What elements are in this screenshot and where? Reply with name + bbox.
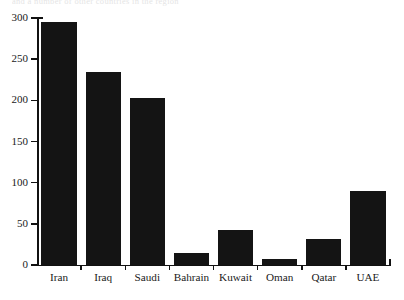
y-axis-tick-label: 0 [0,259,28,270]
x-axis-label-kuwait: Kuwait [214,271,258,283]
x-axis-tick [301,265,303,270]
x-axis-tick [169,265,171,270]
bar-oman [262,259,297,265]
y-axis-tick-label: 250 [0,53,28,64]
x-axis-label-iraq: Iraq [81,271,125,283]
x-axis-tick [257,265,259,270]
x-axis-tick [345,265,347,270]
y-axis-tick-label: 100 [0,177,28,188]
x-axis-tick [125,265,127,270]
x-axis-label-iran: Iran [37,271,81,283]
bars-container [37,18,390,265]
bar-qatar [306,239,341,265]
bar-iran [41,22,76,265]
y-axis-tick-label: 200 [0,94,28,105]
x-axis-tick [213,265,215,270]
x-axis-tick [80,265,82,270]
x-axis-label-bahrain: Bahrain [169,271,213,283]
x-axis-label-uae: UAE [346,271,390,283]
bar-chart-figure: and a number of other countries in the r… [0,0,404,300]
y-axis-tick-label: 300 [0,12,28,23]
y-axis-tick-label: 150 [0,136,28,147]
bar-saudi [130,98,165,265]
clipped-text-above-figure: and a number of other countries in the r… [12,0,272,6]
x-axis-label-qatar: Qatar [302,271,346,283]
bar-iraq [86,72,121,265]
x-axis-label-oman: Oman [258,271,302,283]
y-axis-tick-label: 50 [0,218,28,229]
bar-kuwait [218,230,253,265]
x-axis-label-saudi: Saudi [125,271,169,283]
bar-bahrain [174,253,209,265]
bar-uae [350,191,385,265]
